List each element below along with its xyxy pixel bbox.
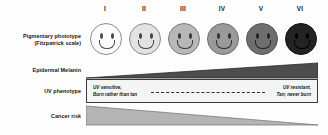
fitzpatrick-scale-figure: Pigmentary phototype (Fitzpatrick scale)… (0, 0, 328, 135)
face-eye-right-icon (228, 33, 232, 39)
uv-gradient-dashed-line (151, 92, 265, 93)
phototype-cell-1: I (86, 20, 124, 62)
phototype-cell-6: VI (281, 20, 319, 62)
phototype-face-4 (207, 23, 239, 55)
phototype-numeral-4: IV (203, 5, 241, 12)
face-smile-icon (216, 40, 232, 49)
phototype-numeral-6: VI (281, 5, 319, 12)
phototype-row-label: Pigmentary phototype (Fitzpatrick scale) (0, 33, 81, 46)
face-smile-icon (255, 40, 271, 49)
face-eye-left-icon (100, 33, 104, 39)
phototype-face-1 (90, 23, 122, 55)
face-smile-icon (294, 40, 310, 49)
cancer-risk-row-label: Cancer risk (0, 113, 81, 120)
uv-phenotype-row-label: UV phenotype (0, 88, 81, 95)
phototype-face-6 (285, 23, 317, 55)
face-eye-left-icon (178, 33, 182, 39)
epidermal-melanin-wedge (86, 62, 318, 79)
phototype-numeral-1: I (86, 5, 124, 12)
face-eye-right-icon (267, 33, 271, 39)
phototype-row-label-line1: Pigmentary phototype (0, 33, 81, 40)
face-eye-right-icon (189, 33, 193, 39)
uv-resistant-line2: Tan; never burn (276, 91, 311, 98)
phototype-cell-5: V (242, 20, 280, 62)
cancer-risk-wedge (86, 105, 318, 127)
face-eye-right-icon (150, 33, 154, 39)
uv-sensitive-line2: Burn rather than tan (93, 91, 137, 98)
phototype-cell-4: IV (203, 20, 241, 62)
face-eye-left-icon (217, 33, 221, 39)
row-label-column: Pigmentary phototype (Fitzpatrick scale)… (0, 0, 81, 135)
phototype-cell-3: III (164, 20, 202, 62)
uv-resistant-line1: UV resistant, (276, 84, 311, 91)
face-eye-right-icon (111, 33, 115, 39)
phototype-faces-row: I II III IV (86, 20, 318, 62)
phototype-face-3 (168, 23, 200, 55)
phototype-row-label-line2: (Fitzpatrick scale) (0, 40, 81, 47)
phototype-numeral-3: III (164, 5, 202, 12)
phototype-cell-2: II (125, 20, 163, 62)
phototype-face-5 (246, 23, 278, 55)
cancer-risk-triangle-shape (86, 105, 318, 127)
melanin-row-label: Epidermal Melanin (0, 67, 81, 74)
epidermal-melanin-triangle-shape (86, 62, 318, 79)
face-eye-right-icon (306, 33, 310, 39)
face-eye-left-icon (295, 33, 299, 39)
face-eye-left-icon (139, 33, 143, 39)
uv-sensitive-text: UV sensitive, Burn rather than tan (93, 84, 137, 99)
uv-resistant-text: UV resistant, Tan; never burn (276, 84, 311, 99)
face-eye-left-icon (256, 33, 260, 39)
face-smile-icon (138, 40, 154, 49)
phototype-numeral-2: II (125, 5, 163, 12)
uv-sensitive-line1: UV sensitive, (93, 84, 137, 91)
phototype-face-2 (129, 23, 161, 55)
phototype-numeral-5: V (242, 5, 280, 12)
face-smile-icon (177, 40, 193, 49)
face-smile-icon (99, 40, 115, 49)
uv-phenotype-box: UV sensitive, Burn rather than tan UV re… (86, 79, 318, 103)
